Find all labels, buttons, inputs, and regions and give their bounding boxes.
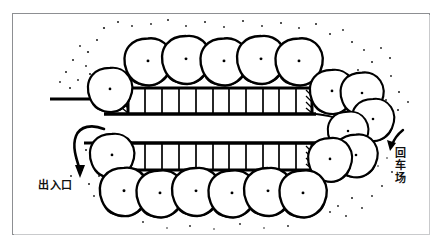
tree-row-upper (124, 36, 322, 86)
tree-cluster-left (88, 68, 134, 179)
tree-row-lower (100, 168, 327, 219)
entrance-label: 出入口 (38, 176, 73, 192)
screenshot-root: 出入口 回车场 (0, 0, 442, 249)
tree-cluster-right (308, 70, 394, 183)
site-plan-drawing (0, 0, 442, 249)
turnaround-label: 回车场 (395, 148, 409, 185)
